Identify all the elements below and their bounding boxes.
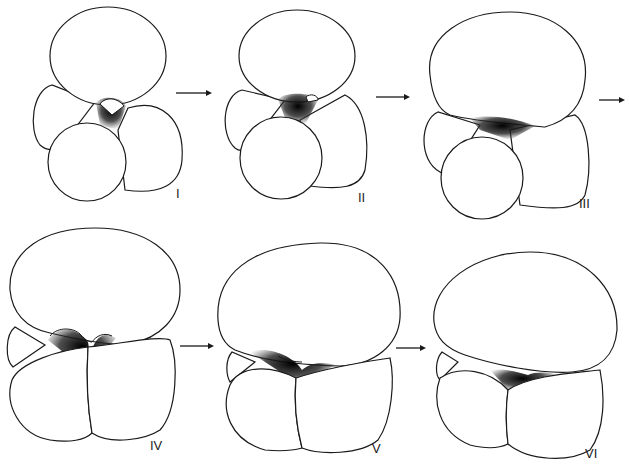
stage-label-6: VI [585,446,597,461]
stage-label-1: I [176,186,180,201]
arrow-2-to-3 [376,94,410,100]
specimen-stage-4: IV [7,228,180,453]
stage-label-5: V [372,441,381,456]
arrow-3-to-4 [599,97,625,103]
arrow-5-to-6 [396,345,426,351]
specimen-stage-6: VI [434,252,617,461]
specimen-stage-1: I [33,7,182,201]
specimen-stage-2: II [225,10,367,205]
stage-label-4: IV [150,438,163,453]
specimen-stage-5: V [218,243,400,456]
specimen-stage-3: III [424,12,590,219]
arrow-1-to-2 [176,90,212,96]
evolution-diagram: I II III IV [0,0,630,465]
arrow-4-to-5 [180,343,214,349]
stage-label-3: III [579,196,590,211]
stage-label-2: II [358,190,365,205]
